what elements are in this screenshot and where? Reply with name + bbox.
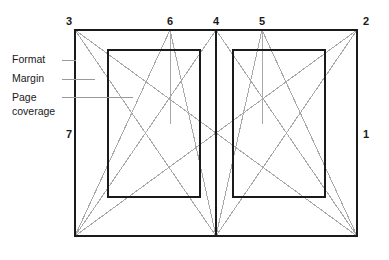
right-text-block-rect: [233, 50, 325, 197]
page-construction-diagram: 3645271 FormatMarginPagecoverage: [0, 0, 389, 260]
callout-label-line: coverage: [12, 105, 55, 117]
callout-labels-group: FormatMarginPagecoverage: [12, 53, 55, 117]
left-text-block-rect: [108, 50, 200, 197]
corner-number-6: 6: [167, 15, 173, 27]
construction-line-diag-5-to-4-down: [216, 30, 262, 236]
corner-number-3: 3: [66, 15, 72, 27]
construction-line-diag-5-to-1: [262, 30, 357, 236]
diagram-canvas: 3645271 FormatMarginPagecoverage: [0, 0, 389, 260]
construction-line-diag-6-to-4-down: [170, 30, 216, 236]
callout-label-line: Margin: [12, 72, 44, 84]
corner-numbers-group: 3645271: [66, 15, 369, 140]
corner-number-4: 4: [213, 15, 220, 27]
callout-label-line: Page: [12, 91, 37, 103]
corner-number-7: 7: [66, 128, 72, 140]
corner-number-1: 1: [363, 128, 369, 140]
construction-line-diag-6-to-7: [75, 30, 170, 236]
corner-number-5: 5: [259, 15, 265, 27]
callout-label-margin: Margin: [12, 72, 44, 84]
corner-number-2: 2: [363, 15, 369, 27]
callout-label-page-coverage: Pagecoverage: [12, 91, 55, 117]
callout-label-format: Format: [12, 53, 45, 65]
callout-label-line: Format: [12, 53, 45, 65]
callout-leader-lines-group: [62, 60, 133, 97]
